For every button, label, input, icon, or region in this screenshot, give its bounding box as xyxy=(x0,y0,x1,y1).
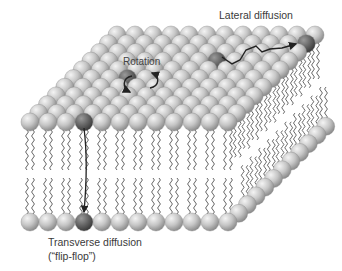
lipid-head xyxy=(183,213,201,231)
lipid-head xyxy=(21,213,39,231)
lipid-tail xyxy=(104,178,107,214)
lipid-tail xyxy=(80,178,83,214)
lipid-tail xyxy=(273,87,276,123)
lateral-diffusion-label: Lateral diffusion xyxy=(219,9,293,21)
lipid-tail xyxy=(291,69,294,105)
lipid-tail xyxy=(212,178,215,214)
lipid-tail xyxy=(68,130,71,170)
side-heads xyxy=(230,117,335,222)
lipid-head xyxy=(219,213,237,231)
lipid-head xyxy=(147,213,165,231)
lipid-tail xyxy=(230,130,233,170)
lipid-tail xyxy=(256,104,259,140)
lipid-tail xyxy=(62,178,65,214)
lipid-tail xyxy=(250,157,253,189)
lipid-tail xyxy=(264,95,267,131)
lipid-head xyxy=(39,213,57,231)
lipid-head xyxy=(57,213,75,231)
lipid-head xyxy=(201,213,219,231)
lipid-tail xyxy=(98,130,101,170)
lipid-tail xyxy=(158,178,161,214)
lipid-tail xyxy=(116,178,119,214)
lipid-tail xyxy=(158,130,161,170)
lipid-tail xyxy=(247,113,250,149)
lipid-tail xyxy=(152,130,155,170)
lipid-tail xyxy=(140,178,143,214)
lipid-tail xyxy=(26,130,29,170)
lipid-tail xyxy=(44,178,47,214)
lipid-head xyxy=(93,113,111,131)
lipid-tail xyxy=(50,178,53,214)
lipid-tail xyxy=(176,178,179,214)
lipid-tail xyxy=(140,130,143,170)
lipid-tail xyxy=(170,178,173,214)
lipid-head xyxy=(183,113,201,131)
lipid-tail xyxy=(122,130,125,170)
flipflop-bottom-lipid xyxy=(75,213,93,231)
lipid-tail xyxy=(188,130,191,170)
front-tails xyxy=(26,130,233,214)
top-leaflet-heads xyxy=(21,26,324,131)
flip-flop-label: (“flip-flop”) xyxy=(48,250,96,262)
lipid-tail xyxy=(62,130,65,170)
lipid-tail xyxy=(176,130,179,170)
lipid-tail xyxy=(104,130,107,170)
lipid-tail xyxy=(276,131,279,163)
lipid-tail xyxy=(32,178,35,214)
lipid-tail xyxy=(294,113,297,145)
lipid-tail xyxy=(325,87,328,119)
lipid-tail xyxy=(152,178,155,214)
lipid-tail xyxy=(134,130,137,170)
lipid-tail xyxy=(50,130,53,170)
lipid-tail xyxy=(259,148,262,180)
lipid-tail xyxy=(32,130,35,170)
lipid-tail xyxy=(116,130,119,170)
lipid-head xyxy=(57,113,75,131)
lipid-bilayer-diagram xyxy=(0,0,342,271)
lipid-head xyxy=(39,113,57,131)
lipid-tail xyxy=(188,178,191,214)
lipid-tail xyxy=(122,178,125,214)
lipid-tail xyxy=(317,43,320,79)
lipid-head xyxy=(201,113,219,131)
lipid-tail xyxy=(44,130,47,170)
lipid-tail xyxy=(170,130,173,170)
lipid-head xyxy=(147,113,165,131)
lipid-head xyxy=(111,113,129,131)
lipid-tail xyxy=(308,52,311,88)
lipid-tail xyxy=(68,178,71,214)
lipid-tail xyxy=(194,130,197,170)
lipid-tail xyxy=(299,60,302,96)
lipid-tail xyxy=(206,178,209,214)
lipid-tail xyxy=(194,178,197,214)
lipid-tail xyxy=(98,178,101,214)
lipid-tail xyxy=(311,96,314,128)
bottom-leaflet-heads xyxy=(21,213,237,231)
lipid-head xyxy=(219,113,237,131)
transverse-diffusion-label: Transverse diffusion xyxy=(48,236,142,248)
lipid-tail xyxy=(212,130,215,170)
lipid-tail xyxy=(134,178,137,214)
lipid-tail xyxy=(224,178,227,214)
lipid-head xyxy=(93,213,111,231)
lipid-head xyxy=(165,213,183,231)
lipid-tail xyxy=(282,78,285,114)
lipid-tail xyxy=(238,121,241,157)
lipid-tail xyxy=(285,122,288,154)
lipid-tail xyxy=(26,178,29,214)
lipid-tail xyxy=(320,87,323,119)
lipid-tail xyxy=(267,139,270,171)
lipid-tail xyxy=(302,104,305,136)
lipid-tail xyxy=(206,130,209,170)
lipid-head xyxy=(21,113,39,131)
lipid-head xyxy=(111,213,129,231)
lipid-tail xyxy=(241,165,244,197)
lipid-head xyxy=(129,213,147,231)
lipid-tail xyxy=(224,130,227,170)
lipid-head xyxy=(165,113,183,131)
lipid-tail xyxy=(80,130,83,170)
rotation-label: Rotation xyxy=(123,56,160,68)
lipid-head xyxy=(129,113,147,131)
